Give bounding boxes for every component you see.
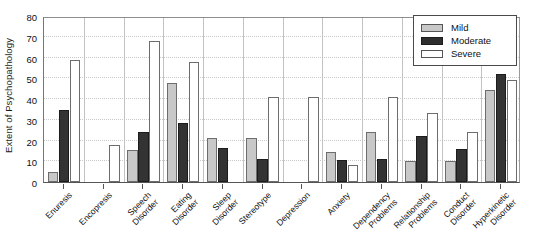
x-axis-tick [341, 184, 342, 189]
bar-group [203, 18, 243, 182]
x-axis-tick-label: SpeechDisorder [123, 190, 160, 227]
x-axis-tick-label: HyperkineticDisorder [471, 190, 519, 238]
legend-label: Mild [451, 22, 468, 33]
legend-swatch-moderate [421, 37, 443, 45]
x-axis-tick [381, 184, 382, 189]
bar [405, 161, 416, 182]
bar [427, 113, 438, 183]
x-axis-tick [460, 184, 461, 189]
y-axis-tick-label: 80 [26, 12, 37, 23]
y-axis-tick-label: 20 [26, 136, 37, 147]
legend-item: Severe [421, 47, 510, 60]
x-axis-tick [222, 184, 223, 189]
bar [268, 97, 279, 182]
y-axis-title-text: Extent of Psychopathology [3, 38, 14, 153]
x-axis-label-line1: Anxiety [325, 190, 352, 217]
x-axis-tick [63, 184, 64, 189]
bar-group [84, 18, 124, 182]
x-axis-tick-label: RelationshipProblems [391, 190, 439, 238]
y-axis-tick-label: 40 [26, 95, 37, 106]
bar-group [124, 18, 164, 182]
bar [127, 150, 138, 182]
x-axis-tick [301, 184, 302, 189]
bar [59, 110, 70, 182]
x-axis-tick-label: DependencyProblems [351, 190, 399, 238]
y-axis-tick-label: 60 [26, 53, 37, 64]
bar-group [44, 18, 84, 182]
x-axis-tick [142, 184, 143, 189]
x-axis-tick [182, 184, 183, 189]
y-axis-tick-label: 70 [26, 32, 37, 43]
bar [366, 132, 377, 182]
legend-swatch-severe [421, 50, 443, 58]
bar [326, 152, 337, 182]
bar [246, 138, 257, 182]
y-axis-tick-label: 50 [26, 74, 37, 85]
legend-label: Moderate [451, 35, 491, 46]
legend-label: Severe [451, 48, 481, 59]
x-axis-tick-label: SleepDisorder [203, 190, 240, 227]
x-axis-tick [262, 184, 263, 189]
bar [456, 149, 467, 182]
bar [496, 74, 507, 182]
x-axis-tick-label: Anxiety [325, 190, 352, 217]
bar [70, 60, 81, 182]
legend-swatch-mild [421, 24, 443, 32]
bar [348, 165, 359, 182]
chart-legend: MildModerateSevere [413, 15, 517, 66]
x-axis-tick-label: Encopresis [77, 190, 114, 227]
x-axis-label-line1: Depression [275, 190, 313, 228]
bar-chart: Extent of Psychopathology 01020304050607… [0, 0, 538, 251]
x-axis-label-line1: Enuresis [43, 190, 74, 221]
bar [308, 97, 319, 182]
x-axis-label-line1: Encopresis [77, 190, 114, 227]
bar [445, 161, 456, 182]
bar-group [243, 18, 283, 182]
bar [109, 145, 120, 182]
x-axis-tick [500, 184, 501, 189]
bar [189, 62, 200, 182]
x-axis-tick [103, 184, 104, 189]
bar [388, 97, 399, 182]
bar [337, 160, 348, 182]
y-axis-tick-label: 0 [32, 178, 37, 189]
bar [507, 80, 518, 182]
x-axis-tick-label: EatingDisorder [163, 190, 200, 227]
bar [138, 132, 149, 182]
legend-item: Moderate [421, 34, 510, 47]
x-axis-tick-label: Stereotype [236, 190, 272, 226]
bar [467, 132, 478, 182]
bar [178, 123, 189, 182]
bar-group [163, 18, 203, 182]
x-axis-tick-label: Depression [275, 190, 313, 228]
bar [377, 159, 388, 182]
y-axis-tick-label: 10 [26, 157, 37, 168]
bar [485, 90, 496, 182]
bar [149, 41, 160, 182]
bar [416, 136, 427, 182]
y-axis-title: Extent of Psychopathology [0, 0, 16, 190]
bar [218, 148, 229, 182]
y-axis-tick-labels: 01020304050607080 [16, 0, 40, 251]
bar [167, 83, 178, 182]
bar-group [283, 18, 323, 182]
x-axis-tick [421, 184, 422, 189]
bar [48, 172, 59, 182]
bar [257, 159, 268, 182]
bar-group [362, 18, 402, 182]
x-axis-label-line1: Stereotype [236, 190, 272, 226]
bar-group [322, 18, 362, 182]
bar [207, 138, 218, 182]
legend-item: Mild [421, 21, 510, 34]
y-axis-tick-label: 30 [26, 115, 37, 126]
x-axis-tick-label: Enuresis [43, 190, 74, 221]
